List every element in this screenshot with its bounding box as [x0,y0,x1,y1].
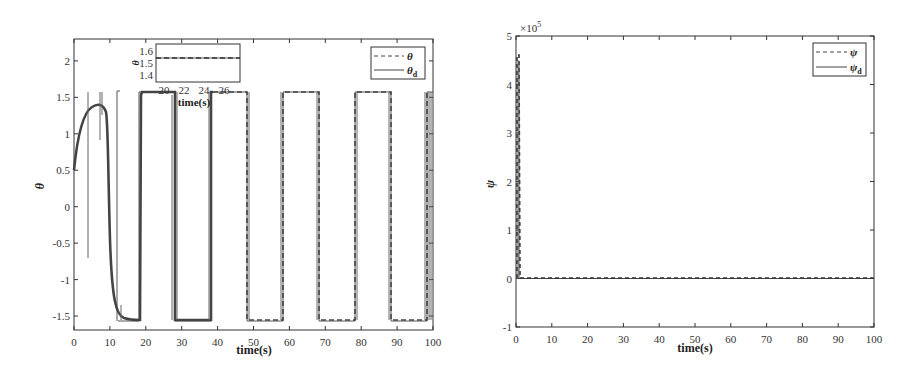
x-tick-label: 10 [104,336,116,348]
y-tick-label: 0.5 [56,164,70,176]
x-tick-label: 80 [797,333,809,345]
figure: 0102030405060708090100 -1.5-1-0.500.511.… [0,0,913,376]
legend-left: θ θd [371,47,425,79]
x-tick-label: 70 [761,333,773,345]
x-tick-label: 100 [425,336,442,348]
x-tick-label: 0 [71,336,77,348]
y-tick-label: 1 [507,224,513,236]
y-tick-label: 0 [507,273,513,285]
x-tick-label: 60 [284,336,296,348]
exponent-label: ×105 [520,20,541,34]
inset-xtick: 22 [179,84,190,96]
legend-psi: ψ [850,46,858,58]
x-axis-label-right: time(s) [677,341,712,355]
x-tick-label: 80 [356,336,368,348]
y-tick-label: 3 [507,127,513,139]
inset-xlabel: time(s) [178,96,211,109]
x-tick-label: 30 [176,336,188,348]
x-axis-label-left: time(s) [236,343,271,357]
x-tick-label: 20 [582,333,594,345]
x-tick-label: 100 [866,333,883,345]
plot-frame-right [516,36,874,327]
inset-ytick: 1.5 [139,57,153,69]
x-tick-label: 0 [513,333,519,345]
inset-ytick: 1.6 [139,45,153,57]
x-tick-label: 90 [833,333,845,345]
x-tick-label: 30 [618,333,630,345]
inset-xtick: 20 [159,84,171,96]
y-tick-label: 2 [507,176,513,188]
x-tick-label: 40 [212,336,224,348]
x-tick-label: 20 [140,336,152,348]
inset-xtick: 24 [199,84,211,96]
y-tick-label: 1.5 [56,91,70,103]
y-tick-label: -1.5 [53,310,71,322]
plot-frame-left [74,39,433,330]
psi-spike [518,60,519,278]
x-tick-label: 90 [392,336,404,348]
y-tick-label: 2 [65,55,71,67]
y-tick-label: -0.5 [53,237,71,249]
x-tick-label: 40 [654,333,666,345]
y-tick-label: -1 [503,321,512,333]
y-tick-label: 5 [507,30,513,42]
x-tick-label: 10 [546,333,558,345]
legend-theta: θ [407,50,413,62]
y-axis-label-right: ψ [483,179,497,188]
x-tick-label: 60 [725,333,737,345]
x-tick-label: 70 [320,336,332,348]
inset-ylabel: θ [130,60,141,66]
inset-xtick: 26 [219,84,231,96]
psi-chart: 0102030405060708090100 -1012345 ×105 ψ ψ… [483,20,883,355]
inset-ytick: 1.4 [139,69,153,81]
y-tick-label: 0 [65,201,71,213]
y-tick-label: 4 [507,79,513,91]
y-axis-label-left: θ [33,182,47,189]
y-tick-label: -1 [61,274,70,286]
legend-right: ψ ψd [813,43,866,76]
theta-chart: 0102030405060708090100 -1.5-1-0.500.511.… [33,39,442,357]
y-tick-label: 1 [65,128,71,140]
